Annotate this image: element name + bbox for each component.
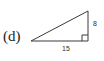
right-angle-marker-icon	[82, 35, 88, 41]
right-triangle-graphic	[0, 0, 104, 61]
height-length-label: 8	[93, 20, 97, 28]
base-length-label: 15	[62, 45, 70, 53]
triangle-outline	[31, 11, 88, 41]
figure-container: (d) 15 8	[0, 0, 104, 61]
